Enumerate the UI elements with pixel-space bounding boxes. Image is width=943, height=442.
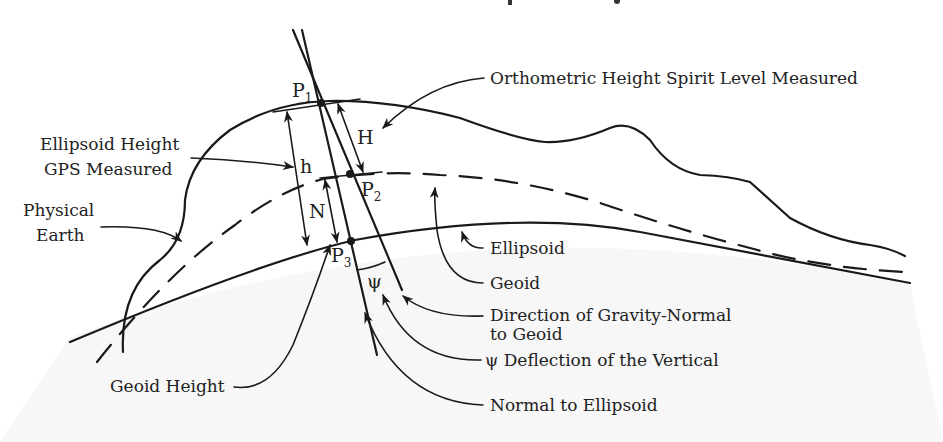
label-deflection: ψ Deflection of the Vertical [485,350,719,370]
symbol-psi: ψ [367,270,382,292]
label-gravity-1: Direction of Gravity-Normal [490,305,732,325]
label-gravity-2: to Geoid [490,324,563,344]
cropped-title [508,0,620,5]
symbol-N: N [309,200,326,222]
label-ellipsoid: Ellipsoid [490,238,565,258]
point-p2 [346,170,354,178]
point-p1 [317,99,325,107]
point-p3 [347,237,355,245]
leader-physical-earth [101,227,181,241]
h-dimension [287,112,307,245]
leader-ellipsoid-height [191,158,293,167]
label-ellipsoid-height-1: Ellipsoid Height [40,134,179,154]
label-orthometric: Orthometric Height Spirit Level Measured [490,68,858,88]
symbol-h: h [300,155,312,177]
label-geoid-height: Geoid Height [110,376,225,396]
label-ellipsoid-height-2: GPS Measured [44,159,173,179]
leader-ellipsoid [462,232,483,248]
label-physical-1: Physical [23,200,94,220]
N-dimension [325,180,337,242]
label-normal-ellipsoid: Normal to Ellipsoid [490,395,658,415]
label-physical-2: Earth [36,225,85,245]
label-p1: P1 [292,79,312,105]
label-geoid: Geoid [490,273,540,293]
geodetic-heights-diagram: P1 P2 P3 H h N ψ Orthometric Height Spir… [0,0,943,442]
symbol-H: H [357,126,374,148]
